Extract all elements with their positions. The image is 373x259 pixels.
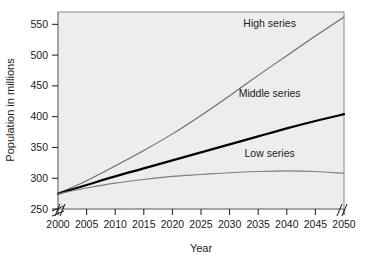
x-axis-title: Year [190, 242, 213, 254]
population-projection-chart: 250300350400450500550 200020052010201520… [0, 0, 373, 259]
x-tick-label: 2000 [46, 218, 70, 230]
y-tick-label: 500 [30, 49, 48, 61]
y-tick-label: 400 [30, 110, 48, 122]
series-label: High series [243, 17, 296, 29]
plot-area [58, 12, 344, 209]
chart-canvas: 250300350400450500550 200020052010201520… [0, 0, 373, 259]
x-tick-label: 2005 [75, 218, 99, 230]
x-tick-label: 2035 [247, 218, 271, 230]
x-tick-label: 2050 [332, 218, 356, 230]
x-tick-label: 2010 [104, 218, 128, 230]
y-tick-label: 350 [30, 141, 48, 153]
x-tick-label: 2020 [161, 218, 185, 230]
series-label: Low series [245, 147, 295, 159]
x-tick-label: 2015 [132, 218, 156, 230]
x-tick-label: 2040 [275, 218, 299, 230]
x-tick-label: 2025 [189, 218, 213, 230]
x-tick-label: 2045 [304, 218, 328, 230]
y-tick-label: 550 [30, 18, 48, 30]
y-tick-label: 450 [30, 79, 48, 91]
series-label: Middle series [239, 87, 301, 99]
y-tick-label: 250 [30, 203, 48, 215]
x-tick-label: 2030 [218, 218, 242, 230]
y-axis-title: Population in millions [4, 58, 16, 162]
y-tick-label: 300 [30, 172, 48, 184]
